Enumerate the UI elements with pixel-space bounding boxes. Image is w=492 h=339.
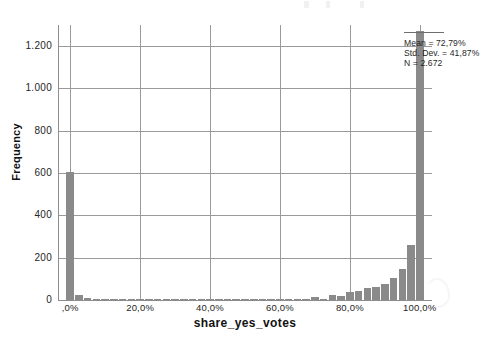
histogram-bar — [337, 296, 345, 300]
histogram-bar — [206, 299, 214, 300]
histogram-bar — [372, 287, 380, 300]
histogram-bar — [399, 269, 407, 300]
y-axis-tick-label: 1.200 — [6, 41, 52, 51]
x-axis-tick-label: 20,0% — [126, 303, 154, 313]
histogram-bar — [163, 299, 171, 300]
x-axis-title: share_yes_votes — [58, 316, 432, 330]
y-axis-tick-label: 400 — [6, 210, 52, 220]
histogram-bar — [381, 284, 389, 301]
histogram-bar — [215, 299, 223, 300]
statistics-divider — [404, 32, 444, 33]
x-axis-tick-label: 40,0% — [196, 303, 224, 313]
histogram-bar — [136, 299, 144, 300]
histogram-bar — [232, 299, 240, 300]
x-axis-line — [58, 300, 432, 301]
x-axis-tick-label: 100,0% — [403, 303, 436, 313]
histogram-bar — [189, 299, 197, 300]
histogram-bar — [119, 299, 127, 300]
histogram-bar — [416, 31, 424, 300]
histogram-bar — [110, 299, 118, 300]
y-axis-title: Frequency — [10, 102, 22, 202]
histogram-bar — [250, 299, 258, 300]
histogram-bar — [145, 299, 153, 300]
histogram-chart: 02004006008001.0001.200 ,0%20,0%40,0%60,… — [0, 0, 492, 339]
y-axis-tick-label: 200 — [6, 253, 52, 263]
histogram-bar — [390, 278, 398, 300]
histogram-bar — [224, 299, 232, 300]
x-axis-tick-label: 60,0% — [266, 303, 294, 313]
histogram-bar — [180, 299, 188, 300]
histogram-bar — [241, 299, 249, 300]
statistics-box: Mean = 72,79% Std. Dev. = 41,87% N = 2.6… — [404, 32, 492, 69]
x-axis-tick-label: ,0% — [62, 303, 79, 313]
statistic-std-dev: Std. Dev. = 41,87% — [404, 48, 492, 58]
histogram-bar — [364, 288, 372, 300]
histogram-bars — [58, 25, 432, 300]
histogram-bar — [276, 299, 284, 300]
histogram-bar — [320, 299, 328, 300]
histogram-bar — [355, 291, 363, 300]
histogram-bar — [128, 299, 136, 300]
histogram-bar — [154, 299, 162, 300]
histogram-bar — [198, 299, 206, 300]
histogram-bar — [66, 172, 74, 300]
histogram-bar — [346, 292, 354, 300]
scan-artifact-top — [300, 1, 480, 8]
histogram-bar — [75, 295, 83, 300]
statistic-n: N = 2.672 — [404, 58, 492, 68]
histogram-bar — [407, 245, 415, 300]
x-axis-tick-label: 80,0% — [336, 303, 364, 313]
histogram-bar — [259, 299, 267, 300]
y-axis-tick-label: 0 — [6, 295, 52, 305]
histogram-bar — [311, 297, 319, 300]
y-axis-tick-label: 1.000 — [6, 83, 52, 93]
histogram-bar — [329, 295, 337, 300]
histogram-bar — [101, 299, 109, 300]
histogram-bar — [84, 298, 92, 300]
histogram-bar — [285, 299, 293, 300]
histogram-bar — [294, 299, 302, 300]
histogram-bar — [267, 299, 275, 300]
histogram-bar — [302, 299, 310, 300]
statistic-mean: Mean = 72,79% — [404, 38, 492, 48]
histogram-bar — [93, 299, 101, 300]
y-axis-tick-labels: 02004006008001.0001.200 — [0, 0, 52, 339]
histogram-bar — [171, 299, 179, 300]
